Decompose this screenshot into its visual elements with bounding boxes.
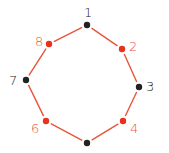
node-label: 3 bbox=[146, 80, 154, 93]
edge bbox=[51, 124, 81, 140]
node-dot bbox=[120, 118, 126, 124]
edge bbox=[29, 49, 46, 75]
edge bbox=[92, 28, 117, 45]
node-label: 1 bbox=[84, 6, 92, 19]
edge bbox=[54, 28, 81, 42]
node-dot bbox=[23, 77, 29, 83]
ring-edges bbox=[0, 0, 169, 153]
edge bbox=[29, 85, 44, 115]
node-dot bbox=[119, 46, 125, 52]
node-label: 2 bbox=[129, 40, 137, 53]
node-dot bbox=[46, 41, 52, 47]
node-label: 7 bbox=[9, 74, 17, 87]
node-label: 6 bbox=[31, 122, 39, 135]
octagon-diagram: 1234678 bbox=[0, 0, 169, 153]
edge bbox=[124, 54, 136, 81]
edge bbox=[92, 124, 118, 140]
node-label: 4 bbox=[130, 122, 138, 135]
node-dot bbox=[84, 140, 90, 146]
node-dot bbox=[136, 84, 142, 90]
node-dot bbox=[84, 22, 90, 28]
node-dot bbox=[43, 118, 49, 124]
edge bbox=[126, 92, 137, 115]
node-label: 8 bbox=[35, 35, 43, 48]
